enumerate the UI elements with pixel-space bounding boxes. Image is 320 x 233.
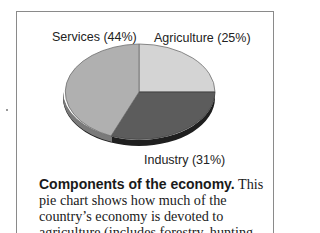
- chart-caption: Components of the economy. This pie char…: [39, 176, 271, 233]
- caption-title: Components of the economy.: [39, 176, 235, 192]
- label-agriculture: Agriculture (25%): [154, 31, 251, 45]
- label-industry: Industry (31%): [144, 153, 225, 167]
- pie-slice-agriculture: [139, 44, 215, 92]
- label-services: Services (44%): [52, 30, 137, 44]
